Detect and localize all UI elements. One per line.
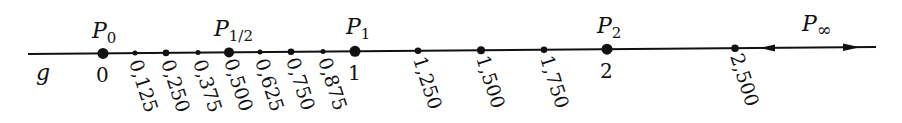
svg-text:P∞: P∞	[801, 11, 832, 40]
tick-label-1-250: 1,250	[409, 53, 447, 112]
tick-label-0-125: 0,125	[125, 56, 163, 115]
right-arrow-icon	[843, 44, 860, 52]
tick-label-1-500: 1,500	[472, 52, 510, 111]
point-phalf-dot	[224, 47, 234, 57]
tick-label-1-750: 1,750	[536, 52, 574, 111]
tick-dot-0-250	[163, 50, 170, 57]
label-pinf: P∞	[801, 11, 832, 40]
tick-dot-0-375	[196, 50, 201, 55]
number-line-diagram: g P0 P1/2 P1 P2 P∞ 0 1 2 0,125 0,250 0,3…	[0, 0, 902, 123]
tick-dot-2-500	[731, 44, 739, 52]
tick-dot-0-750	[288, 49, 295, 56]
label-p2: P2	[596, 13, 621, 42]
tick-label-2-500: 2,500	[726, 50, 764, 109]
point-p2-dot	[602, 44, 613, 55]
point-p1-dot	[350, 46, 361, 57]
svg-text:P0: P0	[91, 18, 116, 47]
tick-label-2: 2	[600, 59, 613, 83]
svg-text:P2: P2	[596, 13, 621, 42]
tick-dot-0-875	[321, 49, 326, 54]
label-phalf: P1/2	[213, 16, 253, 45]
left-arrow-icon	[760, 45, 775, 52]
tick-dot-1-500	[477, 46, 485, 54]
label-p0: P0	[91, 18, 116, 47]
tick-dot-0-125	[133, 51, 138, 56]
tick-label-0: 0	[96, 63, 109, 87]
tick-dot-0-625	[258, 50, 263, 55]
tick-dot-1-750	[541, 46, 548, 53]
line-label-g: g	[36, 60, 50, 85]
svg-text:P1: P1	[345, 14, 370, 43]
label-p1: P1	[345, 14, 370, 43]
tick-dot-1-250	[415, 48, 422, 55]
tick-label-1: 1	[348, 61, 361, 85]
point-p0-dot	[98, 48, 109, 59]
svg-text:P1/2: P1/2	[213, 16, 253, 45]
